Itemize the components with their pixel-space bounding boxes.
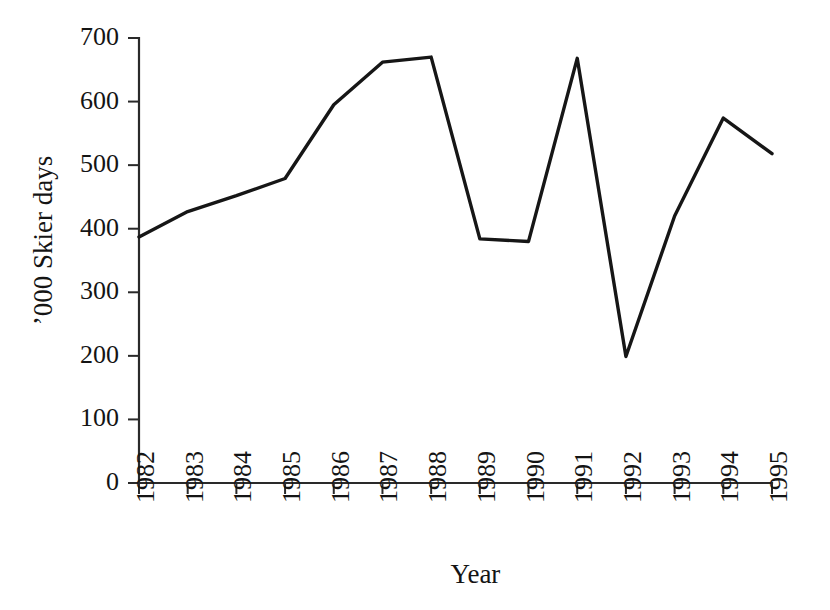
x-tick-label: 1983 xyxy=(180,451,209,503)
y-axis-tick-labels: 0100200300400500600700 xyxy=(80,22,119,496)
x-tick-label: 1992 xyxy=(618,451,647,503)
x-tick-label: 1990 xyxy=(521,451,550,503)
line-chart-figure: 0100200300400500600700 19821983198419851… xyxy=(0,0,830,610)
y-tick-label: 300 xyxy=(80,276,119,305)
y-tick-label: 0 xyxy=(106,467,119,496)
x-tick-label: 1995 xyxy=(764,451,793,503)
x-tick-label: 1987 xyxy=(374,451,403,503)
x-tick-label: 1991 xyxy=(569,451,598,503)
y-tick-label: 500 xyxy=(80,149,119,178)
y-axis-title: ’000 Skier days xyxy=(28,156,58,325)
x-tick-label: 1986 xyxy=(326,451,355,503)
y-tick-label: 700 xyxy=(80,22,119,51)
x-tick-label: 1993 xyxy=(667,451,696,503)
chart-plot-area: 0100200300400500600700 19821983198419851… xyxy=(0,0,830,610)
x-tick-label: 1989 xyxy=(472,451,501,503)
data-series-line xyxy=(139,57,772,356)
x-axis-title: Year xyxy=(451,559,501,589)
x-tick-label: 1982 xyxy=(131,451,160,503)
y-tick-label: 600 xyxy=(80,86,119,115)
y-tick-label: 200 xyxy=(80,340,119,369)
x-tick-label: 1985 xyxy=(277,451,306,503)
x-tick-label: 1994 xyxy=(715,451,744,503)
y-tick-label: 400 xyxy=(80,213,119,242)
y-tick-label: 100 xyxy=(80,403,119,432)
x-tick-label: 1988 xyxy=(423,451,452,503)
y-axis-ticks xyxy=(128,38,139,483)
x-axis-tick-labels: 1982198319841985198619871988198919901991… xyxy=(131,451,793,503)
x-tick-label: 1984 xyxy=(228,451,257,503)
